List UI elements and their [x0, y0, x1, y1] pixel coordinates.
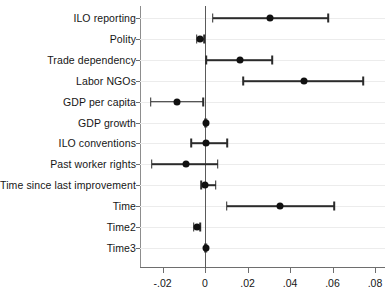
y-axis-label-trade-dependency: Trade dependency [47, 55, 136, 66]
coefficient-plot-figure: ILO reportingPolityTrade dependencyLabor… [0, 0, 389, 294]
point-estimate-marker [202, 182, 209, 189]
confidence-interval-cap [150, 97, 152, 106]
y-axis-tick [136, 60, 140, 61]
x-axis-ticklabel: -.02 [153, 277, 171, 289]
confidence-interval-cap [151, 160, 153, 169]
confidence-interval-cap [271, 56, 273, 65]
point-estimate-marker [193, 223, 200, 230]
gridline [140, 227, 385, 228]
y-axis-label-time2: Time2 [107, 221, 136, 232]
y-axis-tick [136, 39, 140, 40]
point-estimate-marker [277, 202, 284, 209]
confidence-interval-cap [217, 160, 219, 169]
point-estimate-marker [173, 98, 180, 105]
y-axis-tick [136, 102, 140, 103]
x-axis-tick [333, 268, 334, 273]
y-axis-tick [136, 143, 140, 144]
y-axis-label-polity: Polity [110, 34, 136, 45]
y-axis-tick [136, 248, 140, 249]
x-axis-tick [375, 268, 376, 273]
y-axis-label-time: Time [113, 200, 136, 211]
confidence-interval-cap [226, 201, 228, 210]
confidence-interval-cap [203, 97, 205, 106]
point-estimate-marker [267, 15, 274, 22]
confidence-interval-cap [242, 76, 244, 85]
x-axis-ticklabel: .02 [240, 277, 255, 289]
x-axis-tick [248, 268, 249, 273]
plot-area: -.020.02.04.06.08 [140, 6, 385, 268]
x-axis-ticklabel: .08 [368, 277, 383, 289]
y-axis-label-labor-ngos: Labor NGOs [76, 75, 136, 86]
y-axis-tick [136, 227, 140, 228]
y-axis-tick [136, 164, 140, 165]
y-axis-label-gdp-growth: GDP growth [78, 117, 136, 128]
point-estimate-marker [196, 36, 203, 43]
zero-reference-line [205, 6, 206, 268]
point-estimate-marker [300, 77, 307, 84]
y-axis-tick [136, 206, 140, 207]
y-axis-tick [136, 18, 140, 19]
gridline [140, 248, 385, 249]
confidence-interval-cap [333, 201, 335, 210]
y-axis-label-ilo-reporting: ILO reporting [73, 13, 136, 24]
y-axis-label-past-worker-rights: Past worker rights [50, 159, 136, 170]
point-estimate-marker [203, 140, 210, 147]
y-axis-label-time3: Time3 [107, 242, 136, 253]
confidence-interval-cap [327, 14, 329, 23]
y-axis-category-labels: ILO reportingPolityTrade dependencyLabor… [0, 0, 136, 294]
confidence-interval-cap [205, 56, 207, 65]
gridline [140, 123, 385, 124]
confidence-interval-cap [190, 139, 192, 148]
x-axis-ticklabel: 0 [202, 277, 208, 289]
y-axis-tick [136, 123, 140, 124]
y-axis-tick [136, 81, 140, 82]
x-axis-ticklabel: .06 [325, 277, 340, 289]
confidence-interval-cap [227, 139, 229, 148]
y-axis-label-time-since-last-improvement: Time since last improvement [0, 180, 136, 191]
y-axis-tick [136, 185, 140, 186]
x-axis-line [140, 267, 385, 268]
point-estimate-marker [183, 161, 190, 168]
x-axis-tick [205, 268, 206, 273]
x-axis-ticklabel: .04 [283, 277, 298, 289]
confidence-interval-cap [363, 76, 365, 85]
confidence-interval-cap [212, 14, 214, 23]
x-axis-tick [290, 268, 291, 273]
gridline [140, 39, 385, 40]
gridline [140, 143, 385, 144]
y-axis-label-ilo-conventions: ILO conventions [59, 138, 136, 149]
y-axis-line [140, 6, 141, 268]
point-estimate-marker [203, 244, 210, 251]
gridline [140, 185, 385, 186]
confidence-interval-cap [215, 181, 217, 190]
point-estimate-marker [202, 119, 209, 126]
x-axis-tick [163, 268, 164, 273]
point-estimate-marker [237, 57, 244, 64]
y-axis-label-gdp-per-capita: GDP per capita [63, 96, 136, 107]
